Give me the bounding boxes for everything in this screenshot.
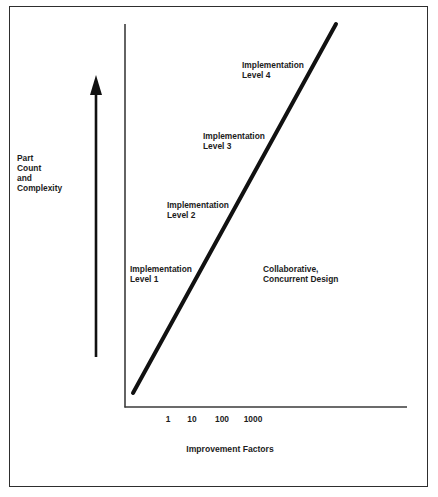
region-label-line: Concurrent Design [263,274,338,284]
level-label-line: Implementation [203,131,265,141]
y-axis-label: Part Count and Complexity [17,153,62,193]
level-label-line: Implementation [167,200,229,210]
collaborative-design-label: Collaborative, Concurrent Design [263,264,338,284]
level-2-label: Implementation Level 2 [167,200,229,220]
level-label-line: Level 3 [203,141,265,151]
level-4-label: Implementation Level 4 [242,60,304,80]
implementation-trend-line [133,24,336,393]
x-tick-label: 1000 [244,414,263,424]
y-axis-label-line: Complexity [17,183,62,193]
level-1-label: Implementation Level 1 [130,264,192,284]
x-tick-label: 1 [166,414,171,424]
x-tick-label: 10 [187,414,196,424]
level-label-line: Implementation [130,264,192,274]
x-tick-label: 100 [215,414,229,424]
level-3-label: Implementation Level 3 [203,131,265,151]
level-label-line: Level 4 [242,70,304,80]
level-label-line: Level 1 [130,274,192,284]
y-axis-label-line: Part [17,153,62,163]
y-axis-label-line: Count [17,163,62,173]
up-arrow-icon [90,75,102,95]
diagram-canvas: Part Count and Complexity Implementation… [0,0,438,497]
y-axis-label-line: and [17,173,62,183]
level-label-line: Implementation [242,60,304,70]
x-axis-label: Improvement Factors [186,444,273,454]
level-label-line: Level 2 [167,210,229,220]
region-label-line: Collaborative, [263,264,338,274]
